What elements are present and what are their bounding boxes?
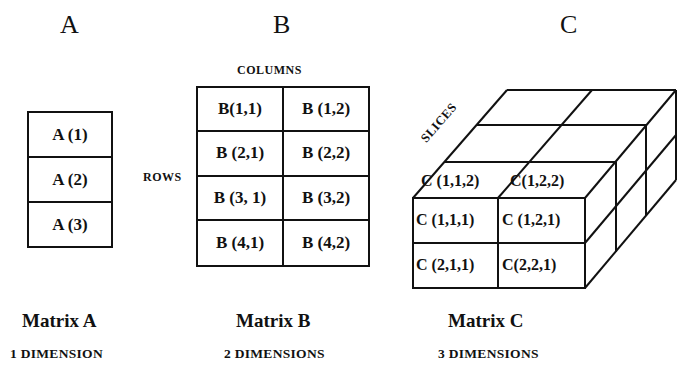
matrix-a-dimension: 1 DIMENSION <box>10 346 103 362</box>
matrix-c-front-cell: C (1,2,1) <box>502 211 560 229</box>
matrix-c-top-cell: C (1,1,2) <box>421 172 479 190</box>
matrix-c-top-cell: C(1,2,2) <box>510 172 564 190</box>
matrix-c-front-cell: C (2,1,1) <box>416 256 474 274</box>
matrix-c-cube <box>0 0 696 384</box>
matrix-b-dimension: 2 DIMENSIONS <box>224 346 325 362</box>
matrix-a-title: Matrix A <box>22 310 96 332</box>
matrix-c-dimension: 3 DIMENSIONS <box>438 346 539 362</box>
matrix-b-title: Matrix B <box>236 310 310 332</box>
matrix-c-front-cell: C (1,1,1) <box>416 211 474 229</box>
matrix-c-front-cell: C(2,2,1) <box>502 256 556 274</box>
matrix-c-title: Matrix C <box>448 310 523 332</box>
